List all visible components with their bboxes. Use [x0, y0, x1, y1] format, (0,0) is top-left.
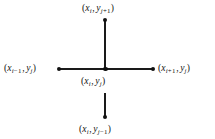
label-top-x-subscript: i [90, 7, 92, 14]
label-right-x-subscript: i+1 [166, 67, 176, 74]
node-dot-top [103, 18, 107, 22]
label-left-y-subscript: j [31, 67, 33, 74]
label-top-close-paren: ) [111, 2, 114, 13]
label-center-close-paren: ) [102, 75, 105, 86]
label-top-y-sub-offset: 1 [107, 7, 111, 14]
label-right-y-subscript: j [185, 67, 187, 74]
label-left-y-var: y [26, 62, 30, 73]
label-center-x-subscript: i [89, 80, 91, 87]
node-label-center: (xi,yj) [81, 75, 105, 86]
label-top-x-var: x [85, 2, 89, 13]
label-center-y-subscript: j [100, 80, 102, 87]
label-bottom-close-paren: ) [108, 123, 111, 134]
label-center-comma: , [91, 75, 94, 86]
stencil-vertical-arm-upper [104, 20, 106, 69]
label-left-comma: , [22, 62, 25, 73]
label-bottom-x-subscript: i [87, 128, 89, 135]
node-label-left: (xi−1,yj) [4, 62, 36, 73]
label-right-y-var: y [180, 62, 184, 73]
label-left-close-paren: ) [33, 62, 36, 73]
node-label-bottom: (xi,yj−1) [79, 123, 111, 134]
label-bottom-comma: , [89, 123, 92, 134]
label-bottom-y-subscript: j−1 [98, 128, 108, 135]
label-center-x-var: x [84, 75, 88, 86]
label-right-comma: , [176, 62, 179, 73]
node-label-top: (xi,yj+1) [82, 2, 114, 13]
node-label-right: (xi+1,yj) [158, 62, 190, 73]
node-dot-right [151, 67, 155, 71]
label-left-x-sub-offset: 1 [18, 67, 22, 74]
label-bottom-x-var: x [82, 123, 86, 134]
node-dot-bottom [103, 115, 107, 119]
label-right-close-paren: ) [187, 62, 190, 73]
node-dot-center [103, 67, 108, 72]
stencil-vertical-arm-lower [104, 93, 106, 117]
label-top-comma: , [92, 2, 95, 13]
label-top-y-subscript: j+1 [101, 7, 111, 14]
label-right-x-sub-offset: 1 [172, 67, 176, 74]
label-left-x-subscript: i−1 [12, 67, 22, 74]
finite-difference-stencil-figure: (xi,yj+1) (xi−1,yj) (xi,yj) (xi+1,yj) (x… [0, 0, 215, 139]
label-bottom-y-sub-offset: 1 [104, 128, 108, 135]
node-dot-left [57, 67, 61, 71]
